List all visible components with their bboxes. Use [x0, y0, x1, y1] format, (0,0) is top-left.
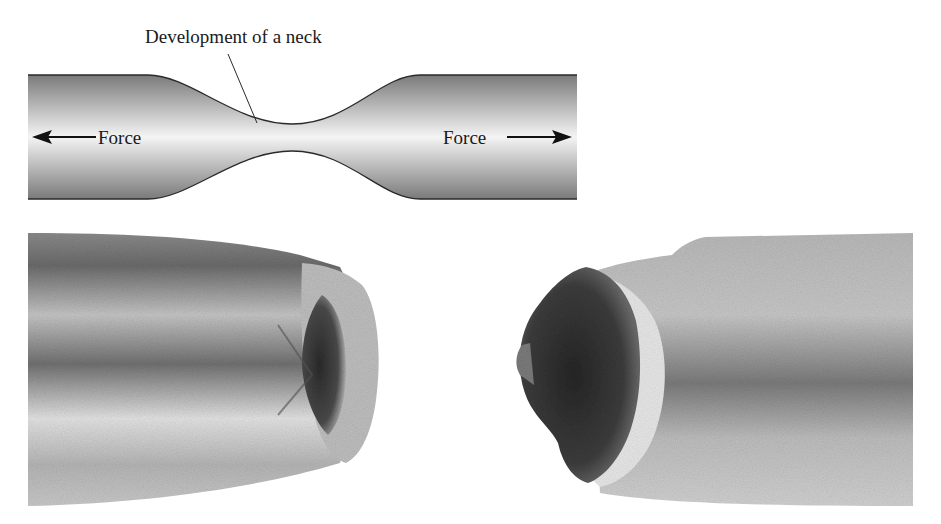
specimen-schematic: [0, 0, 941, 215]
fracture-photo-pair: [0, 225, 941, 524]
fracture-photos: [0, 225, 941, 524]
left-fractured-specimen: [28, 233, 379, 506]
force-right-label: Force: [443, 128, 486, 147]
necking-diagram: Development of a neck Force Force: [0, 0, 941, 215]
force-left-label: Force: [98, 128, 141, 147]
right-fractured-specimen: [516, 233, 913, 506]
neck-label: Development of a neck: [145, 27, 322, 46]
